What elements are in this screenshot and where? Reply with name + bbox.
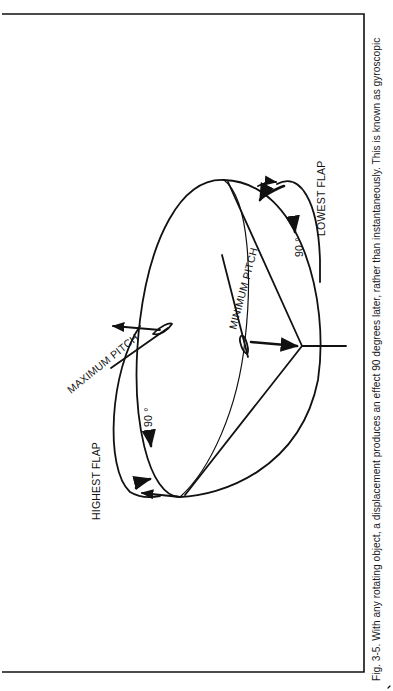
label-lowest-flap: LOWEST FLAP [315, 160, 327, 236]
rotor-precession-figure: HIGHEST FLAP LOWEST FLAP MAXIMUM PITCH M… [0, 0, 393, 691]
minimum-pitch-force-arrow [251, 342, 297, 346]
lowest-flap-arc [277, 181, 320, 282]
figure-caption: Fig. 3-5. With any rotating object, a di… [371, 38, 382, 681]
label-maximum-pitch: MAXIMUM PITCH [65, 331, 141, 396]
lowest-flap-rotation-arrow [258, 182, 276, 186]
label-angle-right: 90 ° [293, 237, 305, 257]
highest-flap-curl-arrow [136, 479, 150, 488]
cone-line-bottom [185, 346, 302, 495]
label-highest-flap: HIGHEST FLAP [90, 442, 102, 520]
maximum-pitch-force-arrow [113, 326, 160, 330]
angle-arrow-right [293, 218, 295, 232]
figure-frame [2, 14, 364, 672]
label-angle-left: 90 ° [142, 407, 154, 427]
rotor-disc-outline [137, 180, 321, 497]
rotor-disc-inner-arc [180, 180, 248, 497]
scan-mark [388, 686, 390, 688]
angle-arrow-left [149, 432, 151, 446]
